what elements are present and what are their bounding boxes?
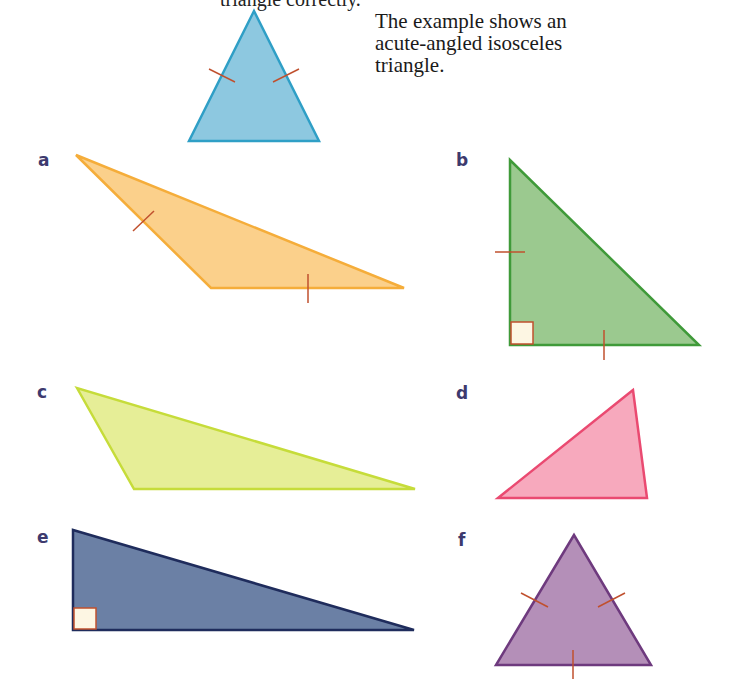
- triangle-e: [73, 530, 414, 630]
- triangle-b: [495, 160, 699, 360]
- example-triangle: [189, 11, 319, 141]
- triangle-d: [498, 390, 647, 498]
- triangle-a: [76, 155, 404, 303]
- right-angle-icon: [511, 322, 533, 344]
- triangle-c: [77, 388, 415, 489]
- triangles-diagram: [0, 0, 729, 695]
- right-angle-icon: [74, 608, 96, 629]
- triangle-f: [496, 535, 651, 679]
